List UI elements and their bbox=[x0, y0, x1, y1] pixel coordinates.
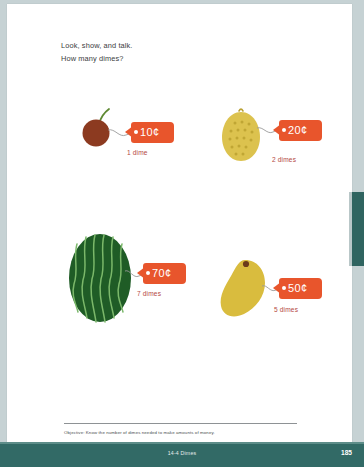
instruction-line-2: How many dimes? bbox=[61, 53, 311, 66]
instruction-line-1: Look, show, and talk. bbox=[61, 40, 311, 53]
price-tag: 10¢ bbox=[125, 122, 174, 143]
dime-count-label: 1 dime bbox=[127, 149, 148, 156]
price-tag: 50¢ bbox=[273, 278, 322, 299]
price-tag: 20¢ bbox=[273, 120, 322, 141]
page-root: Look, show, and talk. How many dimes? 10… bbox=[0, 0, 364, 467]
dime-count-label: 5 dimes bbox=[274, 306, 298, 313]
tag-price-text: 10¢ bbox=[140, 122, 174, 143]
tag-price-text: 70¢ bbox=[152, 263, 186, 284]
tag-hole bbox=[282, 128, 286, 132]
tag-price-text: 20¢ bbox=[288, 120, 322, 141]
price-tag: 70¢ bbox=[137, 263, 186, 284]
footer-chapter-label: 14-4 Dimes bbox=[0, 450, 364, 456]
dime-count-label: 2 dimes bbox=[272, 156, 296, 163]
tag-hole bbox=[134, 130, 138, 134]
worksheet-page: Look, show, and talk. How many dimes? 10… bbox=[7, 4, 352, 444]
dime-count-label: 7 dimes bbox=[137, 290, 161, 297]
objective-text: Objective: Know the number of dimes need… bbox=[64, 430, 344, 435]
tag-hole bbox=[282, 286, 286, 290]
instructions-block: Look, show, and talk. How many dimes? bbox=[61, 40, 311, 65]
tag-price-text: 50¢ bbox=[288, 278, 322, 299]
tag-hole bbox=[146, 271, 150, 275]
objective-divider bbox=[64, 423, 297, 424]
footer-page-number: 185 bbox=[318, 449, 352, 456]
chapter-edge-tab bbox=[352, 192, 364, 266]
